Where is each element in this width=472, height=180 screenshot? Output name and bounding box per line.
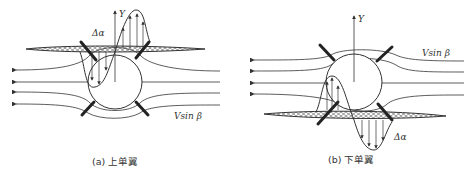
panel-low-wing: Y Δα Vsin β (b) 下单翼 (236, 0, 472, 180)
delta-alpha-label: Δα (91, 28, 105, 38)
y-axis-label: Y (358, 14, 365, 24)
y-axis-label: Y (119, 9, 126, 19)
caption-high-wing: (a) 上单翼 (92, 154, 138, 168)
wing (264, 111, 446, 118)
panel-high-wing: Y Δα Vsin β (a) 上单翼 (0, 0, 236, 180)
flow-label: Vsin β (422, 48, 450, 58)
delta-alpha-label: Δα (393, 132, 407, 142)
high-wing-diagram: Y Δα Vsin β (0, 0, 236, 180)
flow-label: Vsin β (174, 111, 202, 121)
caption-low-wing: (b) 下单翼 (328, 152, 374, 166)
